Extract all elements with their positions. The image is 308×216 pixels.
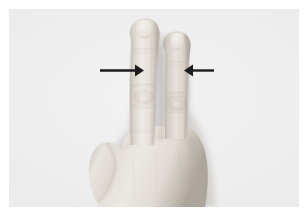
photo-grain-overlay xyxy=(9,9,299,207)
photograph xyxy=(9,9,299,207)
figure-container: two-fingers-raised xyxy=(0,0,308,216)
